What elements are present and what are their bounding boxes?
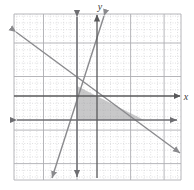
x-axis-label: x bbox=[183, 91, 189, 102]
coordinate-plane-svg: x y bbox=[0, 0, 194, 190]
y-axis-label: y bbox=[97, 1, 103, 12]
graph-figure: x y bbox=[0, 0, 194, 190]
